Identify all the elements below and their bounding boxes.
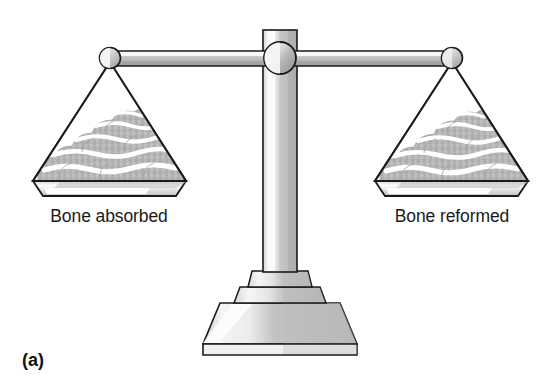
balance-scale-illustration: Bone absorbed Bone reformed (a) (0, 0, 555, 389)
base-foot-shadow (283, 303, 357, 344)
right-pan-label: Bone reformed (395, 206, 509, 226)
base-collar-shadow (283, 272, 311, 286)
left-pan-rim-highlight (44, 188, 150, 194)
figure-container: Bone absorbed Bone reformed (a) (0, 0, 555, 389)
panel-letter: (a) (22, 350, 44, 370)
base-rim-shadow (283, 345, 357, 354)
base-step-middle-shadow (283, 288, 325, 302)
right-pan-group (375, 62, 532, 196)
left-pan-group (33, 62, 190, 196)
right-pan-rim-highlight (386, 188, 492, 194)
left-pan-label: Bone absorbed (50, 206, 167, 226)
scale-base (203, 271, 357, 355)
